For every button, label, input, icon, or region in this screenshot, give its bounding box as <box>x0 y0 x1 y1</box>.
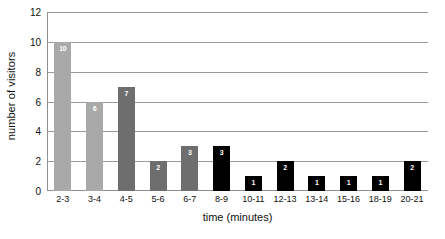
bar: 2 <box>277 161 294 191</box>
x-axis-tick-label: 2-3 <box>47 194 79 210</box>
bar-slot: 2 <box>396 12 428 191</box>
bar-slot: 2 <box>142 12 174 191</box>
bar-value-label: 10 <box>59 45 66 52</box>
bar-value-label: 1 <box>347 179 351 186</box>
bar-value-label: 1 <box>252 179 256 186</box>
y-axis-tick-label: 8 <box>35 66 41 77</box>
y-axis-tick-labels: 024681012 <box>22 0 45 239</box>
bar-value-label: 7 <box>125 90 129 97</box>
bar: 2 <box>404 161 421 191</box>
y-axis-tick-label: 12 <box>30 7 41 18</box>
bar-slot: 1 <box>333 12 365 191</box>
bar-slot: 7 <box>111 12 143 191</box>
x-axis-tick-label: 15-16 <box>333 194 365 210</box>
x-axis-tick-label: 3-4 <box>79 194 111 210</box>
bar-slot: 6 <box>79 12 111 191</box>
x-axis-tick-label: 8-9 <box>206 194 238 210</box>
x-axis-tick-label: 6-7 <box>174 194 206 210</box>
x-axis-tick-label: 5-6 <box>142 194 174 210</box>
bar-slot: 1 <box>238 12 270 191</box>
x-axis-title: time (minutes) <box>47 211 428 223</box>
bar-value-label: 6 <box>93 105 97 112</box>
y-axis-title: number of visitors <box>0 0 22 191</box>
x-axis-tick-label: 12-13 <box>269 194 301 210</box>
x-axis-tick-label: 10-11 <box>238 194 270 210</box>
y-axis-tick-label: 4 <box>35 126 41 137</box>
bar-value-label: 2 <box>283 164 287 171</box>
y-axis-title-text: number of visitors <box>5 51 17 140</box>
bar-value-label: 2 <box>156 164 160 171</box>
x-axis-tick-labels: 2-33-44-55-66-78-910-1112-1313-1415-1618… <box>47 194 428 210</box>
bar: 6 <box>86 102 103 192</box>
y-axis-tick-label: 0 <box>35 186 41 197</box>
bar-slot: 1 <box>365 12 397 191</box>
bar: 1 <box>340 176 357 191</box>
bar: 10 <box>54 42 71 191</box>
bar-chart: number of visitors 024681012 10672331211… <box>0 0 445 239</box>
bar: 1 <box>308 176 325 191</box>
x-axis-tick-label: 20-21 <box>396 194 428 210</box>
bar: 3 <box>181 146 198 191</box>
bar-value-label: 2 <box>410 164 414 171</box>
y-axis-tick-label: 10 <box>30 36 41 47</box>
bar-value-label: 1 <box>379 179 383 186</box>
bar-value-label: 3 <box>188 149 192 156</box>
plot-area: 1067233121112 <box>47 12 428 191</box>
bar-slot: 3 <box>174 12 206 191</box>
bar: 1 <box>372 176 389 191</box>
bar-slot: 2 <box>269 12 301 191</box>
bar-slot: 10 <box>47 12 79 191</box>
x-axis-tick-label: 4-5 <box>111 194 143 210</box>
bar: 2 <box>150 161 167 191</box>
bar: 7 <box>118 87 135 191</box>
y-axis-tick-label: 2 <box>35 156 41 167</box>
bar: 1 <box>245 176 262 191</box>
bar-value-label: 3 <box>220 149 224 156</box>
bar-value-label: 1 <box>315 179 319 186</box>
bar-slot: 3 <box>206 12 238 191</box>
x-axis-tick-label: 18-19 <box>365 194 397 210</box>
bar-slot: 1 <box>301 12 333 191</box>
bar: 3 <box>213 146 230 191</box>
x-axis-tick-label: 13-14 <box>301 194 333 210</box>
y-axis-tick-label: 6 <box>35 96 41 107</box>
bar-series: 1067233121112 <box>47 12 428 191</box>
